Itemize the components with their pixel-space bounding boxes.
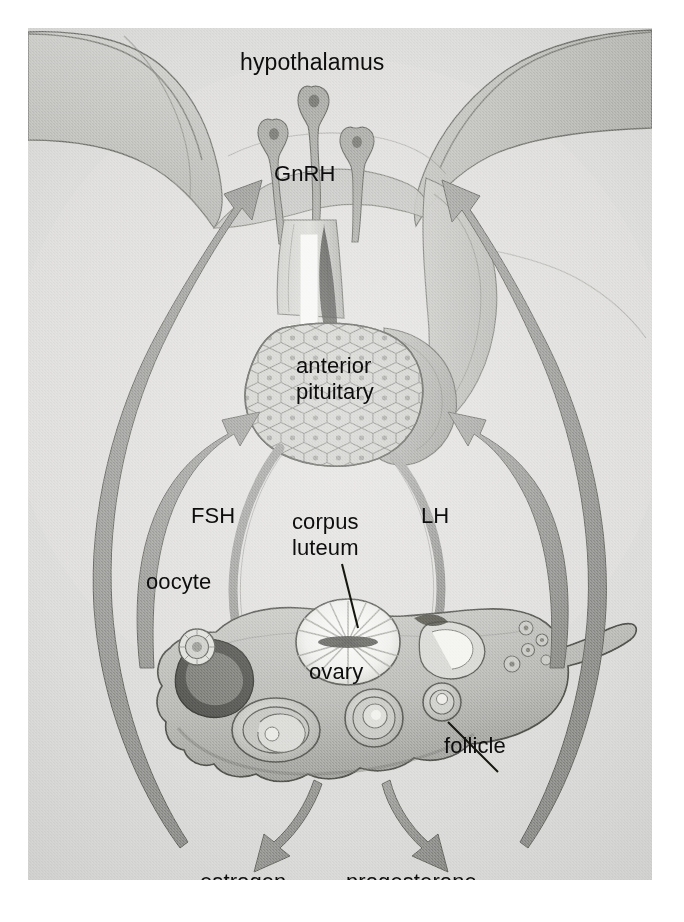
- diagram-illustration: [28, 28, 652, 880]
- follicle-structure: [423, 683, 461, 721]
- label-lh: LH: [421, 504, 449, 528]
- label-corpus-luteum-line1: corpus: [292, 510, 359, 534]
- label-gnrh: GnRH: [274, 162, 336, 186]
- label-progesterone: progesterone: [346, 870, 477, 880]
- diagram-canvas: hypothalamus GnRH anterior pituitary FSH…: [28, 28, 652, 880]
- label-anterior-pituitary-line1: anterior: [296, 354, 371, 378]
- label-corpus-luteum-line2: luteum: [292, 536, 359, 560]
- label-hypothalamus: hypothalamus: [240, 50, 384, 75]
- label-oocyte: oocyte: [146, 570, 211, 594]
- label-follicle: follicle: [444, 734, 506, 758]
- label-anterior-pituitary-line2: pituitary: [296, 380, 374, 404]
- figure-root: hypothalamus GnRH anterior pituitary FSH…: [0, 0, 684, 922]
- label-estrogen: estrogen: [200, 870, 286, 880]
- label-fsh: FSH: [191, 504, 235, 528]
- label-ovary: ovary: [309, 660, 363, 684]
- oocyte-structure: [179, 629, 215, 665]
